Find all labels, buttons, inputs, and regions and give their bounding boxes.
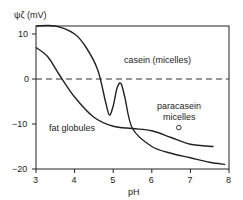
svg-text:−20: −20 — [12, 164, 27, 174]
svg-text:6: 6 — [149, 175, 154, 185]
svg-text:7: 7 — [187, 175, 192, 185]
svg-text:3: 3 — [33, 175, 38, 185]
x-axis-label: pH — [128, 187, 140, 197]
svg-text:4: 4 — [72, 175, 77, 185]
paracasein-label-2: micelles — [163, 112, 196, 122]
svg-text:5: 5 — [110, 175, 115, 185]
casein-curve — [36, 25, 225, 164]
casein-label: casein (micelles) — [124, 55, 191, 65]
svg-text:10: 10 — [18, 29, 28, 39]
zeta-potential-chart: 345678100−10−20 ψζ (mV) pH casein (micel… — [0, 0, 243, 200]
y-axis-label: ψζ (mV) — [14, 10, 46, 20]
plot-frame — [36, 26, 229, 169]
paracasein-point — [177, 125, 182, 130]
chart-svg: 345678100−10−20 ψζ (mV) pH casein (micel… — [0, 0, 243, 200]
svg-text:−10: −10 — [12, 119, 27, 129]
fat-label: fat globules — [49, 123, 96, 133]
svg-text:8: 8 — [226, 175, 231, 185]
paracasein-label-1: paracasein — [157, 101, 201, 111]
svg-text:0: 0 — [24, 74, 29, 84]
